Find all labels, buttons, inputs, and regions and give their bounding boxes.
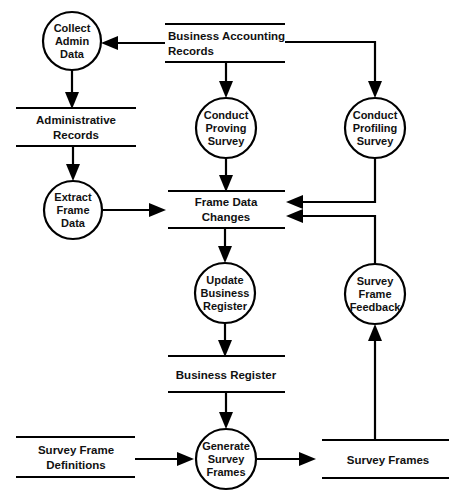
store-frame-data-changes[interactable]: Frame Data Changes xyxy=(168,191,285,228)
process-label-line: Proving xyxy=(206,122,247,134)
process-label-line: Update xyxy=(206,274,243,286)
process-label-line: Data xyxy=(61,217,86,229)
flow-bar-to-profiling-survey xyxy=(285,42,382,98)
process-label-line: Survey xyxy=(357,135,395,147)
arrowhead xyxy=(299,452,316,466)
store-label-line: Administrative xyxy=(36,114,116,126)
arrowhead xyxy=(286,195,303,209)
arrowhead xyxy=(65,92,79,109)
flow-profiling-to-frame-changes xyxy=(286,158,375,209)
store-business-accounting-records[interactable]: Business Accounting Records xyxy=(165,24,285,62)
process-label-line: Extract xyxy=(54,191,92,203)
process-extract-frame-data[interactable]: Extract Frame Data xyxy=(44,181,102,239)
flow-generate-to-survey-frames xyxy=(256,452,316,466)
flow-feedback-to-frame-changes xyxy=(286,209,375,264)
flow-collect-admin-to-admin-recs xyxy=(65,70,79,109)
store-label-line: Business Accounting xyxy=(168,30,285,42)
store-label-line: Records xyxy=(53,129,99,141)
diagram-canvas: Administrative Records Business Accounti… xyxy=(0,0,449,502)
arrowhead xyxy=(368,81,382,98)
process-label-line: Register xyxy=(203,300,248,312)
store-survey-frame-definitions[interactable]: Survey Frame Definitions xyxy=(16,437,135,477)
arrowhead xyxy=(218,246,232,263)
arrowhead xyxy=(177,452,194,466)
process-conduct-profiling-survey[interactable]: Conduct Profiling Survey xyxy=(345,98,405,158)
store-label-line: Records xyxy=(168,45,214,57)
process-label-line: Generate xyxy=(202,440,250,452)
arrowhead xyxy=(218,340,232,357)
flow-frame-changes-to-update xyxy=(218,228,232,263)
process-conduct-proving-survey[interactable]: Conduct Proving Survey xyxy=(196,98,256,158)
flow-update-to-business-register xyxy=(218,323,232,357)
process-generate-survey-frames[interactable]: Generate Survey Frames xyxy=(196,429,256,489)
process-label-line: Conduct xyxy=(353,109,398,121)
process-collect-admin-data[interactable]: Collect Admin Data xyxy=(43,12,101,70)
arrowhead xyxy=(219,412,233,429)
store-label-line: Survey Frames xyxy=(347,454,429,466)
process-survey-frame-feedback[interactable]: Survey Frame Feedback xyxy=(345,264,405,324)
flow-bar-to-proving-survey xyxy=(219,62,233,98)
flow-admin-recs-to-extract xyxy=(66,146,80,181)
process-label-line: Collect xyxy=(54,22,91,34)
process-label-line: Profiling xyxy=(353,122,398,134)
store-label-line: Survey Frame xyxy=(38,444,114,456)
store-administrative-records[interactable]: Administrative Records xyxy=(16,108,136,146)
flow-bar-to-collect-admin xyxy=(101,36,165,50)
process-label-line: Admin xyxy=(55,35,90,47)
process-label-line: Feedback xyxy=(350,301,402,313)
store-survey-frames[interactable]: Survey Frames xyxy=(322,440,449,478)
flow-proving-to-frame-changes xyxy=(219,158,233,192)
process-label-line: Frames xyxy=(206,466,245,478)
arrowhead xyxy=(101,36,118,50)
data-flow-diagram: Administrative Records Business Accounti… xyxy=(0,0,449,502)
flow-business-register-to-generate xyxy=(219,392,233,429)
process-label-line: Frame xyxy=(358,288,391,300)
store-label-line: Definitions xyxy=(46,459,105,471)
flow-definitions-to-generate xyxy=(135,452,194,466)
process-update-business-register[interactable]: Update Business Register xyxy=(195,263,255,323)
store-label-line: Business Register xyxy=(176,369,277,381)
arrowhead xyxy=(149,203,166,217)
store-label-line: Frame Data xyxy=(195,196,258,208)
process-label-line: Frame xyxy=(56,204,89,216)
process-label-line: Conduct xyxy=(204,109,249,121)
arrowhead xyxy=(219,81,233,98)
store-label-line: Changes xyxy=(202,211,251,223)
flow-extract-to-frame-changes xyxy=(102,203,166,217)
process-label-line: Data xyxy=(60,48,85,60)
flow-survey-frames-to-feedback xyxy=(368,324,382,440)
store-business-register[interactable]: Business Register xyxy=(168,356,285,392)
process-label-line: Business xyxy=(201,287,250,299)
arrowhead xyxy=(286,209,303,223)
process-label-line: Survey xyxy=(357,275,395,287)
process-label-line: Survey xyxy=(208,453,246,465)
arrowhead xyxy=(66,164,80,181)
arrowhead xyxy=(219,175,233,192)
process-label-line: Survey xyxy=(208,135,246,147)
arrowhead xyxy=(368,324,382,341)
